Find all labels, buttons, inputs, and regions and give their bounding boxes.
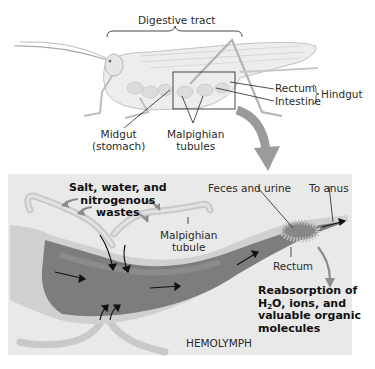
inputs-label: Salt, water, and nitrogenous wastes [69,182,167,220]
hemolymph-label: HEMOLYMPH [186,337,252,349]
rectum-detail-label: Rectum [273,260,313,272]
feces-and-urine-label: Feces and urine [208,182,291,194]
to-anus-label: To anus [309,182,349,194]
malpighian-tubule-label: Malpighian tubule [160,229,217,253]
reabsorption-label: Reabsorption of H2O, ions, and valuable … [258,285,361,335]
